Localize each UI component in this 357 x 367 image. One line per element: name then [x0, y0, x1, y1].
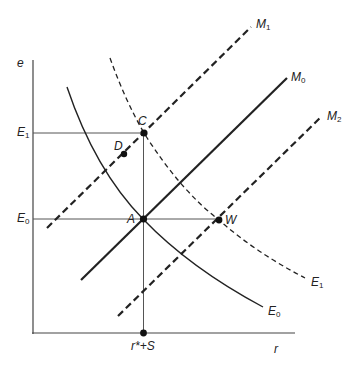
curve-e1	[110, 58, 305, 278]
label-point-a: A	[127, 213, 135, 225]
label-e0-curve: E0	[268, 305, 280, 319]
label-m0-main: M	[291, 70, 301, 84]
x-tick-r-star-s: r*+S	[131, 340, 155, 352]
label-m1-main: M	[256, 17, 266, 31]
label-m1: M1	[256, 18, 270, 32]
label-m0-sub: 0	[301, 76, 305, 85]
y-tick-e0-sub: 0	[25, 217, 29, 226]
point-r-star-s	[140, 330, 147, 337]
label-point-c: C	[138, 115, 147, 127]
label-e0-curve-sub: 0	[276, 310, 280, 319]
y-axis-label: e	[17, 57, 24, 69]
point-w	[216, 217, 223, 224]
label-point-d: D	[114, 140, 123, 152]
label-m2-main: M	[327, 109, 337, 123]
label-m0: M0	[291, 71, 305, 85]
label-e1-curve-sub: 1	[319, 281, 323, 290]
label-e0-curve-main: E	[268, 304, 276, 318]
y-tick-e1-sub: 1	[25, 131, 29, 140]
x-axis-label: r	[274, 343, 278, 355]
y-tick-e1-main: E	[17, 125, 25, 139]
curve-m0	[81, 78, 287, 280]
y-tick-e0: E0	[17, 212, 29, 226]
label-e1-curve: E1	[311, 276, 323, 290]
curve-m2	[118, 116, 322, 316]
label-point-w: W	[225, 214, 236, 226]
point-c	[140, 129, 147, 136]
m-curves	[47, 27, 322, 316]
label-m1-sub: 1	[266, 23, 270, 32]
points	[121, 129, 223, 336]
curve-m1	[47, 27, 251, 228]
label-m2-sub: 2	[337, 115, 341, 124]
diagram-canvas	[0, 0, 357, 367]
point-a	[140, 215, 147, 222]
y-tick-e0-main: E	[17, 211, 25, 225]
guide-lines	[33, 133, 219, 333]
label-e1-curve-main: E	[311, 275, 319, 289]
label-m2: M2	[327, 110, 341, 124]
y-tick-e1: E1	[17, 126, 29, 140]
